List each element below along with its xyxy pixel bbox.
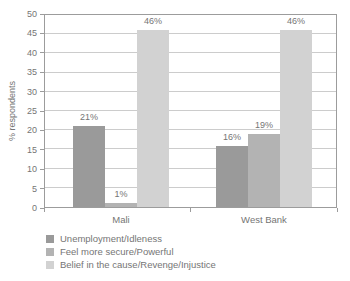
x-category-label: West Bank	[214, 214, 314, 226]
y-tick-label: 5	[0, 183, 37, 195]
bar-value-label: 46%	[270, 16, 322, 27]
y-tick-mark	[40, 52, 44, 53]
y-tick-mark	[40, 91, 44, 92]
x-category-label: Mali	[71, 214, 171, 226]
y-tick-mark	[40, 14, 44, 15]
y-tick-mark	[40, 130, 44, 131]
y-tick-label: 40	[0, 47, 37, 59]
bar-value-label: 21%	[63, 112, 115, 123]
legend-swatch	[46, 261, 54, 269]
legend-item: Unemployment/Idleness	[46, 234, 216, 244]
legend-swatch	[46, 235, 54, 243]
y-tick-label: 25	[0, 105, 37, 117]
legend-item: Feel more secure/Powerful	[46, 247, 216, 257]
x-tick-mark	[190, 208, 191, 212]
y-tick-label: 20	[0, 124, 37, 136]
y-tick-label: 30	[0, 86, 37, 98]
y-tick-label: 35	[0, 66, 37, 78]
legend-label: Feel more secure/Powerful	[60, 247, 174, 257]
y-tick-mark	[40, 72, 44, 73]
x-tick-mark	[337, 208, 338, 212]
y-tick-label: 0	[0, 202, 37, 214]
x-tick-mark	[44, 208, 45, 212]
plot-area: 21%1%46%16%19%46%	[44, 14, 337, 208]
legend: Unemployment/IdlenessFeel more secure/Po…	[46, 234, 216, 273]
bar-mali-series3	[137, 30, 169, 207]
y-tick-mark	[40, 33, 44, 34]
y-tick-mark	[40, 149, 44, 150]
y-tick-mark	[40, 111, 44, 112]
bar-west-bank-series3	[280, 30, 312, 207]
y-tick-mark	[40, 169, 44, 170]
legend-item: Belief in the cause/Revenge/Injustice	[46, 260, 216, 270]
bar-value-label: 46%	[127, 16, 179, 27]
bar-west-bank-series2	[248, 134, 280, 207]
y-tick-label: 50	[0, 8, 37, 20]
bar-west-bank-series1	[216, 146, 248, 207]
legend-swatch	[46, 248, 54, 256]
bar-mali-series2	[105, 203, 137, 207]
bar-chart: % respondents 21%1%46%16%19%46% Unemploy…	[0, 0, 350, 281]
legend-label: Unemployment/Idleness	[60, 234, 162, 244]
y-tick-mark	[40, 188, 44, 189]
y-tick-label: 15	[0, 144, 37, 156]
y-tick-label: 10	[0, 163, 37, 175]
legend-label: Belief in the cause/Revenge/Injustice	[60, 260, 216, 270]
y-tick-label: 45	[0, 27, 37, 39]
